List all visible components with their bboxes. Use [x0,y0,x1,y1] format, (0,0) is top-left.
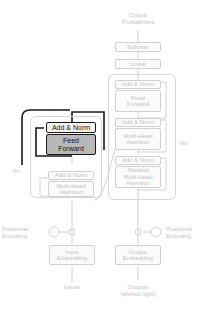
encoder-add-norm-highlighted: Add & Norm [46,122,96,133]
linear-box: Linear [115,59,161,69]
linear-label: Linear [130,61,147,68]
decoder-add-norm-2: Add & Norm [115,118,161,127]
output-embedding-line2: Embedding [123,255,153,262]
encoder-add-norm-top-label: Add & Norm [52,124,90,132]
softmax-label: Softmax [127,44,149,51]
decoder-positional-encoding-label: Positional Encoding [166,226,205,239]
input-embedding-box: Input Embedding [49,245,95,265]
decoder-feed-forward: Feed Forward [115,90,161,112]
output-embedding-box: Output Embedding [115,245,161,265]
decoder-ff-line2: Forward [127,101,149,108]
cross-attention-line2: Attention [126,139,150,146]
output-probabilities-line2: Probabilities [118,19,158,26]
decoder-cross-attention: Multi-Head Attention [115,128,161,150]
encoder-positional-encoding-label: Positional Encoding [2,226,42,239]
encoder-pe-line2: Encoding [2,233,42,240]
encoder-add-norm-bottom-label: Add & Norm [55,172,88,179]
decoder-add-norm-2-label: Add & Norm [122,119,155,126]
outputs-shifted-label: Outputs (shifted right) [110,284,166,297]
decoder-add-norm-1-label: Add & Norm [122,81,155,88]
input-embedding-line2: Embedding [57,255,87,262]
encoder-feed-forward-highlighted: Feed Forward [46,134,96,155]
decoder-pe-line2: Encoding [166,233,205,240]
decoder-add-norm-3: Add & Norm [115,156,161,165]
decoder-add-norm-3-label: Add & Norm [122,157,155,164]
masked-attention-line3: Attention [126,180,150,187]
inputs-label: Inputs [52,284,92,291]
softmax-box: Softmax [115,42,161,52]
encoder-add-norm-bottom: Add & Norm [48,171,94,180]
encoder-attention-line2: Attention [59,189,83,196]
encoder-ff-line2: Forward [58,145,84,153]
encoder-nx-label: Nx [8,168,24,175]
decoder-nx-label: Nx [180,140,200,147]
decoder-add-norm-1: Add & Norm [115,80,161,89]
output-probabilities-label: Output Probabilities [118,12,158,25]
outputs-line2: (shifted right) [110,291,166,298]
decoder-masked-attention: Masked Multi-Head Attention [115,166,161,188]
encoder-ff-line1: Feed [63,137,79,145]
encoder-multi-head-attention: Multi-Head Attention [48,181,94,197]
